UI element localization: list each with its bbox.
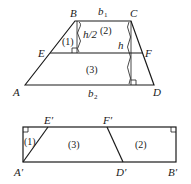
label-f-prime: F′ (102, 114, 113, 126)
label-d: D (152, 86, 161, 98)
label-a: A (12, 86, 20, 98)
right-angle-marker-left (23, 127, 28, 132)
label-e: E (37, 47, 45, 59)
brace-half-height (78, 22, 81, 52)
label-b2-sub: 2 (94, 93, 98, 101)
label-a-prime: A′ (13, 166, 24, 178)
diagram-canvas: B C E F A D b 1 b 2 h/2 h (1) (2) (3) E′… (0, 0, 191, 184)
label-b1-sub: 1 (104, 11, 108, 19)
rectangle-outline (23, 127, 176, 162)
label-height: h (118, 39, 124, 51)
region-2-label-bottom: (2) (135, 139, 147, 151)
label-e-prime: E′ (43, 114, 54, 126)
right-angle-marker-b (72, 48, 77, 53)
region-3-label-bottom: (3) (68, 139, 80, 151)
label-b: B (70, 7, 77, 19)
right-angle-marker-c (131, 80, 136, 85)
right-angle-marker-right (171, 127, 176, 132)
region-1-label: (1) (62, 36, 74, 48)
label-f: F (144, 47, 152, 59)
line-f-d (107, 127, 123, 162)
region-3-label: (3) (86, 64, 98, 76)
region-1-label-bottom: (1) (24, 136, 36, 148)
trapezoid-figure: B C E F A D b 1 b 2 h/2 h (1) (2) (3) (12, 5, 161, 101)
label-c: C (130, 7, 138, 19)
label-b-prime: B′ (168, 166, 178, 178)
label-half-height: h/2 (83, 28, 98, 40)
region-2-label: (2) (100, 25, 112, 37)
rectangle-figure: E′ F′ A′ D′ B′ (1) (3) (2) (13, 114, 178, 178)
label-d-prime: D′ (115, 166, 127, 178)
